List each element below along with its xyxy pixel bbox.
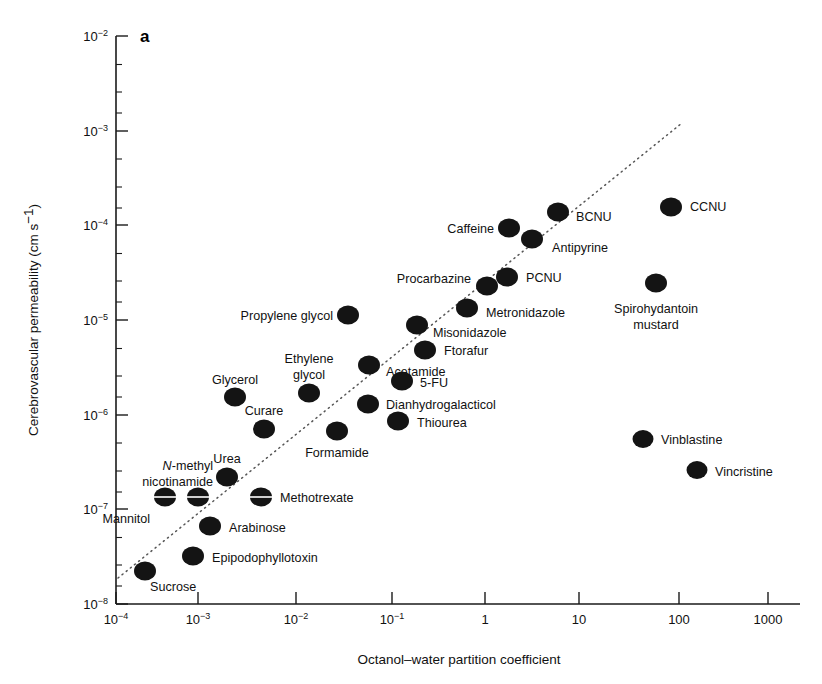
svg-text:10−3: 10−3: [186, 611, 211, 627]
x-tick-label-1: 10: [186, 612, 200, 627]
point-label-spirohydantoin-2: mustard: [633, 318, 679, 332]
point-label-vincristine: Vincristine: [715, 465, 773, 479]
data-points: CCNU BCNU Caffeine Antipyrine Spirohydan…: [102, 198, 772, 595]
svg-text:10−6: 10−6: [83, 407, 108, 423]
data-point-vincristine: Vincristine: [687, 461, 773, 479]
data-point-caffeine: Caffeine: [447, 219, 520, 238]
point-label-nicotinamide: nicotinamide: [142, 475, 213, 489]
x-tick-label-6: 100: [668, 612, 690, 627]
data-point-dianhydrogalacticol: Dianhydrogalacticol: [357, 395, 496, 414]
plot-axes: [116, 36, 800, 604]
data-point-epipodophyllotoxin: Epipodophyllotoxin: [182, 547, 318, 566]
x-tick-label-4: 1: [481, 612, 488, 627]
point-label-ethylene-2: glycol: [293, 368, 325, 382]
y-axis-title: Cerebrovascular permeability (cm s−1): [21, 204, 41, 436]
data-point-ethylene-glycol: Ethylene glycol: [284, 352, 333, 403]
data-point-methotrexate: Methotrexate: [250, 488, 354, 507]
data-point-bcnu: BCNU: [547, 203, 612, 225]
x-axis-title: Octanol–water partition coefficient: [357, 652, 560, 667]
data-point-sucrose: Sucrose: [134, 562, 196, 595]
point-label-urea: Urea: [213, 452, 240, 466]
point-label-dianhydrogalacticol: Dianhydrogalacticol: [386, 398, 496, 412]
data-point-curare: Curare: [245, 404, 284, 439]
point-label-epipodophyllotoxin: Epipodophyllotoxin: [212, 551, 318, 565]
x-tick-labels: 10−4 10−3 10−2 10−1 1 10 100 1000: [104, 611, 783, 627]
point-label-antipyrine: Antipyrine: [552, 241, 608, 255]
y-axis-minor-ticks: [116, 65, 122, 587]
point-label-formamide: Formamide: [305, 446, 369, 460]
x-tick-label-0: 10: [104, 612, 118, 627]
y-tick-label-0: 10: [83, 29, 97, 44]
point-label-thiourea: Thiourea: [417, 416, 467, 430]
y-tick-label-4: 10: [83, 408, 97, 423]
x-tick-label-5: 10: [572, 612, 586, 627]
y-tick-label-2: 10: [83, 218, 97, 233]
svg-text:10−3: 10−3: [83, 123, 108, 139]
data-point-arabinose: Arabinose: [199, 517, 286, 536]
data-point-ccnu: CCNU: [660, 198, 726, 217]
point-label-5-fu: 5-FU: [420, 376, 448, 390]
data-point-mannitol: Mannitol: [102, 488, 176, 527]
data-point-formamide: Formamide: [305, 422, 369, 461]
x-tick-label-3: 10: [380, 612, 394, 627]
point-label-spirohydantoin-1: Spirohydantoin: [614, 302, 698, 316]
y-tick-label-1: 10: [83, 124, 97, 139]
svg-text:10−4: 10−4: [104, 611, 129, 627]
svg-text:10−1: 10−1: [380, 611, 405, 627]
point-label-misonidazole: Misonidazole: [433, 326, 507, 340]
point-label-sucrose: Sucrose: [150, 580, 196, 594]
x-tick-label-2: 10: [284, 612, 298, 627]
point-label-methotrexate: Methotrexate: [280, 491, 354, 505]
data-point-n-methyl-nicotinamide: N-methyl nicotinamide: [142, 459, 213, 507]
svg-text:10−5: 10−5: [83, 312, 108, 328]
point-label-caffeine: Caffeine: [447, 222, 494, 236]
point-label-glycerol: Glycerol: [212, 373, 258, 387]
point-label-ethylene-1: Ethylene: [284, 352, 333, 366]
point-label-bcnu: BCNU: [576, 210, 612, 224]
y-tick-label-5: 10: [83, 502, 97, 517]
y-tick-label-6: 10: [83, 597, 97, 612]
data-point-urea: Urea: [213, 452, 240, 487]
point-label-n-methyl: N-methyl: [163, 459, 213, 473]
point-label-curare: Curare: [245, 404, 284, 418]
svg-text:10−2: 10−2: [284, 611, 309, 627]
trend-line: [118, 123, 682, 578]
point-label-ftorafur: Ftorafur: [444, 344, 488, 358]
point-label-pcnu: PCNU: [526, 271, 562, 285]
panel-label: a: [140, 27, 150, 46]
point-label-arabinose: Arabinose: [229, 521, 286, 535]
data-point-propylene-glycol: Propylene glycol: [241, 306, 359, 325]
y-tick-label-3: 10: [83, 313, 97, 328]
figure-panel-a: 10−2 10−3 10−4 10−5 10−6 10−7 10−8 10−4 …: [0, 0, 822, 684]
data-point-metronidazole: Metronidazole: [456, 299, 565, 321]
data-point-antipyrine: Antipyrine: [521, 230, 608, 256]
point-label-mannitol: Mannitol: [102, 512, 150, 526]
point-label-ccnu: CCNU: [690, 200, 726, 214]
svg-text:10−2: 10−2: [83, 28, 108, 44]
data-point-ftorafur: Ftorafur: [414, 341, 488, 360]
svg-text:10−4: 10−4: [83, 217, 108, 233]
point-label-vinblastine: Vinblastine: [661, 433, 722, 447]
data-point-spirohydantoin-mustard: Spirohydantoin mustard: [614, 274, 698, 333]
data-point-procarbazine: Procarbazine: [397, 272, 498, 296]
point-label-metronidazole: Metronidazole: [486, 306, 565, 320]
data-point-vinblastine: Vinblastine: [633, 430, 723, 448]
data-point-pcnu: PCNU: [496, 268, 562, 287]
x-tick-label-7: 1000: [754, 612, 783, 627]
data-point-thiourea: Thiourea: [387, 412, 467, 431]
point-label-procarbazine: Procarbazine: [397, 272, 471, 286]
data-point-glycerol: Glycerol: [212, 373, 258, 407]
svg-text:10−8: 10−8: [83, 596, 108, 612]
x-axis-ticks: [116, 592, 768, 604]
point-label-propylene-glycol: Propylene glycol: [241, 309, 333, 323]
